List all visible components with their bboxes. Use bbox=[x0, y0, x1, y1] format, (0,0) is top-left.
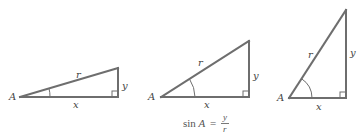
opposite-label-y: y bbox=[121, 80, 128, 91]
fraction-denominator: r bbox=[223, 124, 227, 134]
triangle-small-angle: A r y x bbox=[8, 68, 128, 110]
formula-lhs: sin A = bbox=[183, 117, 216, 129]
vertex-label-a: A bbox=[8, 91, 16, 102]
angle-arc bbox=[190, 79, 196, 97]
sine-formula: sin A = y r bbox=[183, 112, 229, 134]
angle-variable: A bbox=[198, 117, 206, 129]
hypotenuse-r bbox=[20, 68, 118, 97]
vertex-label-a: A bbox=[147, 91, 155, 102]
hypotenuse-label-r: r bbox=[308, 49, 314, 60]
vertex-label-a: A bbox=[276, 92, 284, 103]
triangle-large-angle: A r y x bbox=[276, 10, 356, 112]
hypotenuse-r bbox=[289, 10, 346, 98]
adjacent-label-x: x bbox=[73, 99, 79, 110]
angle-arc bbox=[302, 79, 313, 98]
hypotenuse-r bbox=[161, 41, 249, 97]
fraction-numerator: y bbox=[222, 112, 227, 122]
hypotenuse-label-r: r bbox=[198, 57, 204, 68]
opposite-label-y: y bbox=[252, 70, 259, 81]
sin-function: sin bbox=[183, 117, 196, 129]
adjacent-label-x: x bbox=[316, 101, 322, 112]
adjacent-label-x: x bbox=[204, 99, 210, 110]
triangle-medium-angle: A r y x bbox=[147, 41, 259, 110]
opposite-label-y: y bbox=[349, 47, 356, 58]
angle-arc bbox=[49, 89, 50, 98]
equals-sign: = bbox=[210, 117, 216, 129]
trig-triangles-diagram: A r y x A r y x A r y x sin A = y r bbox=[0, 0, 363, 137]
